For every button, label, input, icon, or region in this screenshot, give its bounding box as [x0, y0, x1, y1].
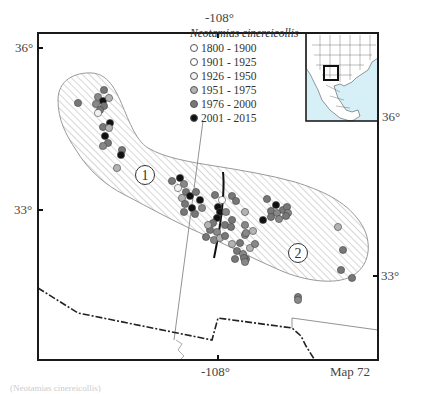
legend-dot-icon	[190, 58, 198, 66]
inset-latitude-label: 36°	[382, 109, 400, 125]
map-number-label: Map 72	[330, 364, 370, 380]
footer-caption: (Neotamias cinereicollis)	[10, 383, 101, 393]
legend-item: 2001 - 2015	[190, 111, 299, 125]
legend-item: 1926 - 1950	[190, 69, 299, 83]
inset-map	[306, 33, 378, 121]
latitude-label-33-right: 33°	[381, 268, 399, 284]
legend-item: 1951 - 1975	[190, 83, 299, 97]
legend-item: 1800 - 1900	[190, 41, 299, 55]
legend-item: 1976 - 2000	[190, 97, 299, 111]
legend-dot-icon	[190, 44, 198, 52]
region-label-1: 1	[142, 168, 149, 183]
legend-dot-icon	[190, 114, 198, 122]
state-line	[292, 318, 378, 330]
legend-item: 1901 - 1925	[190, 55, 299, 69]
legend: Neotamias cinereicollis 1800 - 1900 1901…	[190, 26, 299, 125]
river	[176, 340, 184, 360]
region-label-2: 2	[295, 246, 302, 261]
legend-dot-icon	[190, 72, 198, 80]
longitude-label-bottom: -108°	[201, 364, 230, 380]
latitude-label-36: 36°	[15, 40, 33, 56]
latitude-label-33-left: 33°	[14, 202, 32, 218]
legend-title: Neotamias cinereicollis	[190, 26, 299, 40]
legend-dot-icon	[190, 100, 198, 108]
international-border	[38, 288, 316, 362]
longitude-label-top: -108°	[205, 10, 234, 26]
legend-dot-icon	[190, 86, 198, 94]
